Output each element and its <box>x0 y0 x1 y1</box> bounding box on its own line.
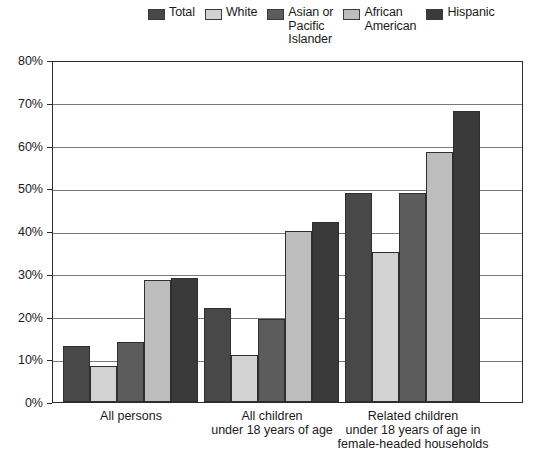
legend-item-label: Hispanic <box>447 6 494 20</box>
legend-item-label: White <box>226 6 257 20</box>
bar <box>399 193 426 402</box>
bar <box>144 280 171 402</box>
y-axis-tick-label: 40% <box>18 225 43 239</box>
plot-area <box>52 61 523 403</box>
x-axis-group-label: Related children under 18 years of age i… <box>313 409 513 451</box>
legend-item: Hispanic <box>426 6 494 20</box>
bar <box>426 152 453 402</box>
legend-item: Total <box>148 6 195 20</box>
bar <box>258 319 285 402</box>
y-axis-tick-label: 50% <box>18 182 43 196</box>
y-axis-tick-label: 60% <box>18 140 43 154</box>
bar-group <box>345 62 480 402</box>
legend-item-label: African American <box>364 6 416 33</box>
legend-item: Asian or Pacific Islander <box>267 6 333 47</box>
bar <box>231 355 258 402</box>
y-axis-tick-label: 70% <box>18 97 43 111</box>
y-axis-tick-label: 30% <box>18 268 43 282</box>
chart-legend: TotalWhiteAsian or Pacific IslanderAfric… <box>148 6 528 47</box>
bar <box>453 111 480 402</box>
bar-group <box>63 62 198 402</box>
bar <box>90 366 117 402</box>
y-axis-tick-label: 0% <box>25 396 43 410</box>
bar <box>63 346 90 402</box>
legend-item: African American <box>343 6 416 33</box>
bar <box>171 278 198 402</box>
y-axis-tick-label: 20% <box>18 311 43 325</box>
legend-swatch-icon <box>205 9 222 20</box>
legend-swatch-icon <box>343 9 360 20</box>
bar <box>345 193 372 402</box>
bar <box>312 222 339 402</box>
bar <box>372 252 399 402</box>
y-axis-tick-label: 80% <box>18 54 43 68</box>
bar <box>117 342 144 402</box>
bar-group <box>204 62 339 402</box>
bar <box>285 231 312 402</box>
legend-item-label: Asian or Pacific Islander <box>288 6 333 47</box>
legend-item: White <box>205 6 257 20</box>
legend-swatch-icon <box>426 9 443 20</box>
y-axis-tick <box>47 403 52 404</box>
bar <box>204 308 231 402</box>
legend-item-label: Total <box>169 6 195 20</box>
y-axis-tick-label: 10% <box>18 353 43 367</box>
legend-swatch-icon <box>148 9 165 20</box>
legend-swatch-icon <box>267 9 284 20</box>
